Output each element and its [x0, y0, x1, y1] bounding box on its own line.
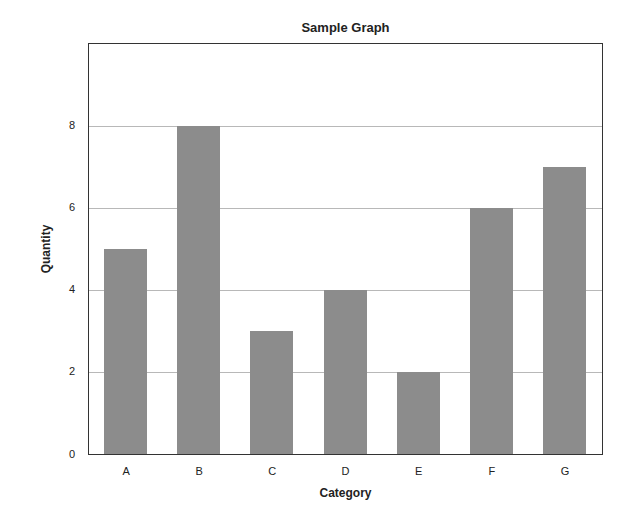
bar-f [470, 208, 513, 454]
bar-a [104, 249, 147, 454]
bar-c [250, 331, 293, 454]
y-axis-label: Quantity [39, 225, 53, 274]
bar-e [397, 372, 440, 454]
x-tick-label: D [326, 465, 366, 477]
y-tick-label: 0 [45, 448, 75, 460]
bar-g [543, 167, 586, 454]
bar-d [324, 290, 367, 454]
x-tick-label: C [252, 465, 292, 477]
x-tick-label: F [472, 465, 512, 477]
y-tick-label: 6 [45, 201, 75, 213]
chart-title: Sample Graph [88, 20, 603, 35]
plot-area [88, 43, 603, 455]
y-tick-label: 8 [45, 119, 75, 131]
x-tick-label: E [399, 465, 439, 477]
y-tick-label: 2 [45, 365, 75, 377]
bar-b [177, 126, 220, 454]
x-tick-label: B [179, 465, 219, 477]
gridline [89, 126, 602, 127]
gridline [89, 208, 602, 209]
x-axis-label: Category [88, 486, 603, 500]
x-tick-label: A [106, 465, 146, 477]
y-tick-label: 4 [45, 283, 75, 295]
x-tick-label: G [545, 465, 585, 477]
